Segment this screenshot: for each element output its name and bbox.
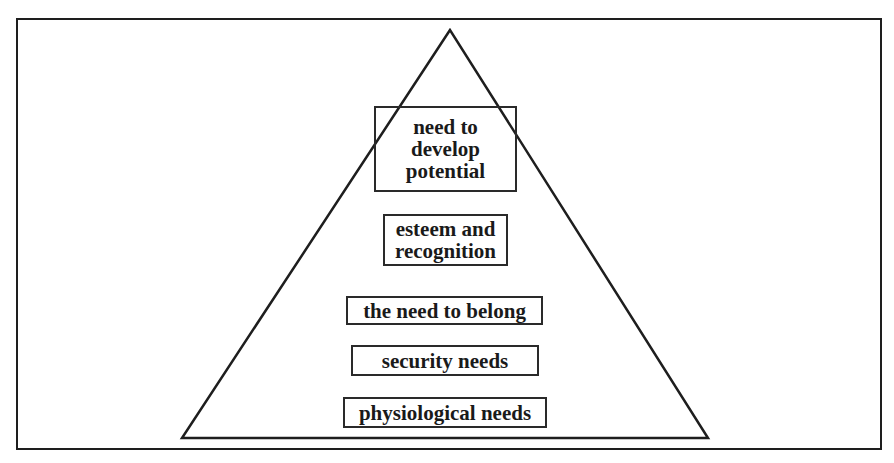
level-esteem-recognition: esteem and recognition	[383, 214, 508, 266]
level-label: physiological needs	[359, 402, 531, 424]
level-need-to-belong: the need to belong	[346, 296, 543, 325]
level-develop-potential: need to develop potential	[374, 106, 517, 192]
level-label: the need to belong	[363, 300, 526, 322]
level-physiological-needs: physiological needs	[343, 397, 547, 428]
level-label: esteem and recognition	[395, 218, 496, 262]
level-label: need to develop potential	[406, 116, 485, 182]
level-security-needs: security needs	[351, 345, 539, 376]
level-label: security needs	[382, 350, 509, 372]
